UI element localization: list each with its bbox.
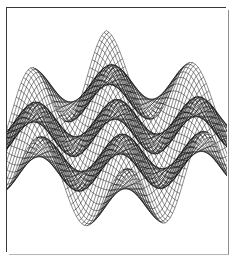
- figure-root: [0, 0, 237, 266]
- plot-frame: [6, 7, 226, 252]
- wireframe-surface-plot: [7, 8, 227, 253]
